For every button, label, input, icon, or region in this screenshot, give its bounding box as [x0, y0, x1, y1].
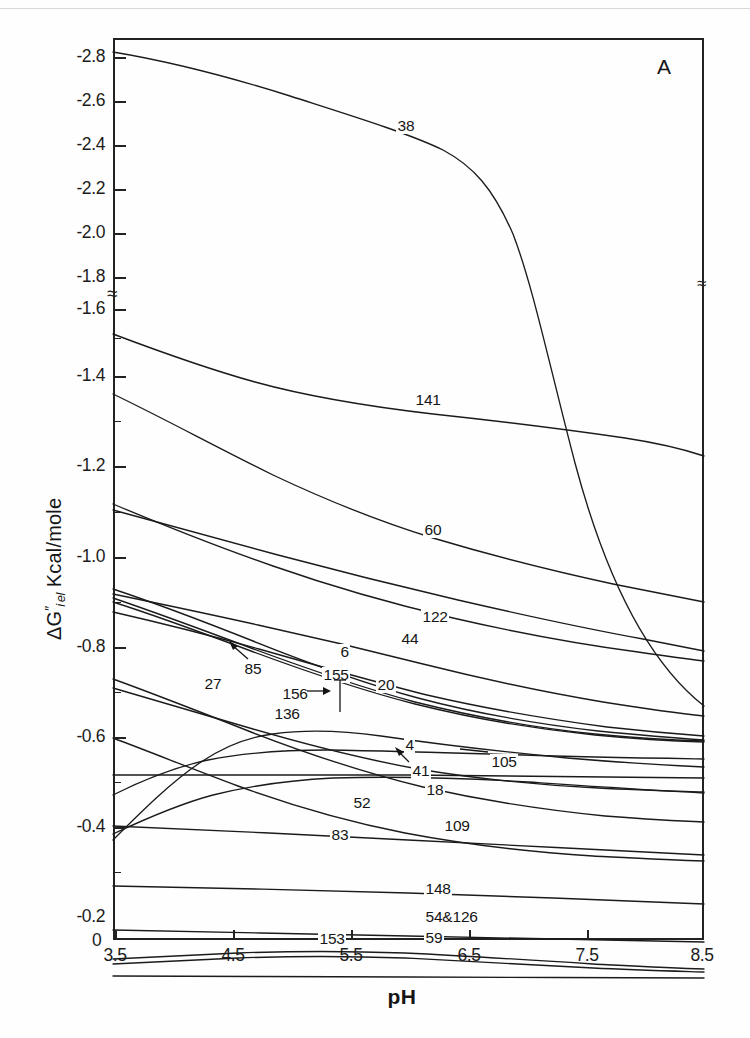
y-tick-label: -1.4 [47, 365, 105, 386]
curve-6 [113, 594, 704, 716]
curve-canvas [113, 38, 704, 940]
x-axis-title: pH [372, 985, 432, 1009]
curve-label: 41 [411, 763, 431, 779]
y-tick-label: -0.4 [47, 816, 105, 837]
curve-155 [113, 602, 704, 742]
x-tick-label: 4.5 [203, 945, 263, 966]
y-tick-label: -2.6 [47, 90, 105, 111]
y-axis-title-prime: ″ [42, 607, 58, 611]
curve-60 [113, 394, 704, 602]
x-tick-label: 8.5 [672, 945, 732, 966]
curve-label: 27 [203, 676, 223, 692]
curve-label: 18 [425, 782, 445, 798]
curve-label: 38 [396, 118, 416, 134]
y-tick-label: -2.0 [47, 222, 105, 243]
y-axis-title-units: Kcal/mole [43, 498, 65, 588]
y-tick-major [113, 57, 126, 59]
y-tick-label: -2.4 [47, 134, 105, 155]
y-tick-minor [113, 512, 121, 513]
y-tick-minor [113, 602, 121, 603]
page-edge-divider [0, 8, 750, 9]
curve-label: 141 [414, 392, 442, 408]
y-tick-major [113, 647, 126, 649]
figure-panel-a: -2.8 -2.6 -2.4 -2.2 -2.0 -1.8 -1.6 -1.4 … [0, 0, 750, 1038]
y-axis-title: ΔG″i el Kcal/mole [42, 498, 68, 640]
y-tick-major [113, 277, 126, 279]
x-tick [702, 930, 704, 940]
x-tick [351, 930, 353, 940]
y-tick-minor [113, 782, 121, 783]
y-tick-label: -2.2 [47, 178, 105, 199]
y-tick-label: -0.6 [47, 726, 105, 747]
curve-label: 44 [400, 631, 420, 647]
y-tick-major [113, 737, 126, 739]
curve-label: 6 [339, 644, 350, 660]
curve-109 [113, 738, 704, 861]
curve-label: 153 [318, 931, 346, 947]
x-tick [469, 930, 471, 940]
y-tick-major [113, 101, 126, 103]
y-tick-minor [113, 692, 121, 693]
curve-85 [113, 589, 704, 740]
panel-letter: A [657, 55, 672, 79]
y-tick-major [113, 557, 126, 559]
y-tick-major [113, 376, 126, 378]
curve-label: 83 [330, 827, 350, 843]
curve-label: 148 [424, 881, 452, 897]
y-tick-major [113, 466, 126, 468]
x-tick [233, 930, 235, 940]
axis-break-left-icon: ≈ [107, 284, 117, 303]
curve-label: 60 [423, 522, 443, 538]
y-tick-major [113, 827, 126, 829]
curve-141 [113, 334, 704, 456]
x-tick [587, 930, 589, 940]
curve-label: 122 [421, 609, 449, 625]
y-tick-label: -1.2 [47, 455, 105, 476]
y-tick-major [113, 233, 126, 235]
curve-label: 105 [490, 754, 518, 770]
curve-label: 54&126 [424, 909, 479, 925]
y-tick-minor [113, 421, 121, 422]
y-tick-label: -1.8 [47, 266, 105, 287]
curve-label: 85 [243, 661, 263, 677]
curve-label: 4 [404, 737, 415, 753]
y-tick-label: -2.8 [47, 46, 105, 67]
curve-label: 20 [376, 677, 396, 693]
y-tick-minor [113, 872, 121, 873]
curve-label: 59 [424, 930, 444, 946]
curve-group [113, 52, 704, 978]
x-tick-label: 7.5 [557, 945, 617, 966]
curve-label: 52 [352, 795, 372, 811]
x-tick [115, 930, 117, 940]
x-tick-label: 3.5 [85, 945, 145, 966]
curve-41 [113, 777, 704, 834]
curve-83 [113, 886, 704, 904]
curve-38 [113, 52, 704, 706]
y-tick-label: -1.6 [47, 298, 105, 319]
curve-label: 156 [281, 686, 309, 702]
curve-label: 155 [322, 667, 350, 683]
curve-148 [113, 930, 704, 942]
y-axis-title-subscript: i el [53, 593, 68, 607]
curve-label: 136 [273, 706, 301, 722]
y-tick-major [113, 189, 126, 191]
y-tick-major [113, 145, 126, 147]
axis-break-right-icon: ≈ [697, 275, 706, 292]
curve-156 [113, 598, 704, 741]
curve-52 [113, 826, 704, 855]
curve-label: 109 [443, 818, 471, 834]
curve-59 [113, 976, 704, 978]
x-tick-label: 6.5 [439, 945, 499, 966]
y-axis-title-delta-g: ΔG [43, 611, 65, 640]
y-tick-label: -0.2 [47, 906, 105, 927]
x-tick-label: 5.5 [321, 945, 381, 966]
y-tick-minor [113, 338, 121, 339]
y-tick-major [113, 309, 126, 311]
